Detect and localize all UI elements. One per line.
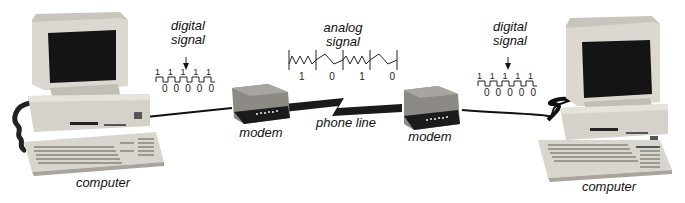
phone-line-label: phone line	[310, 116, 382, 130]
left-computer-cable	[146, 108, 232, 117]
bit: 1	[502, 71, 507, 81]
phone-line-icon	[284, 98, 402, 116]
right-modem-icon	[404, 86, 460, 130]
right-modem-label: modem	[402, 130, 458, 144]
bit: 0	[484, 87, 490, 98]
left-computer-icon	[24, 12, 164, 176]
right-digital-signal-label: digital signal	[488, 20, 532, 48]
analog-label-line1: analog	[318, 21, 368, 35]
left-computer-label: computer	[68, 176, 138, 190]
bit: 1	[206, 67, 211, 77]
bit: 0	[496, 87, 502, 98]
analog-label-line2: signal	[318, 35, 368, 49]
bit: 1	[193, 67, 198, 77]
left-modem-label: modem	[236, 126, 286, 140]
bit: 0	[174, 83, 180, 94]
bit: 1	[359, 71, 365, 82]
left-digital-label-line2: signal	[166, 33, 210, 47]
bit: 1	[180, 67, 185, 77]
bit: 0	[507, 87, 513, 98]
left-top-bits: 1 1 1 1 1	[155, 67, 211, 77]
right-screen	[582, 40, 652, 98]
right-arrow-icon	[505, 63, 511, 70]
analog-waveform	[289, 50, 397, 70]
bit: 1	[168, 67, 173, 77]
bit: 0	[162, 83, 168, 94]
right-top-bits: 1 1 1 1 1	[477, 71, 533, 81]
bit: 1	[477, 71, 482, 81]
left-bottom-bits: 0 0 0 0 0	[162, 83, 214, 94]
right-bottom-bits: 0 0 0 0 0	[484, 87, 536, 98]
bit: 1	[299, 71, 305, 82]
bit: 0	[208, 83, 214, 94]
bit: 1	[528, 71, 533, 81]
bit: 0	[329, 71, 335, 82]
analog-bits: 1 0 1 0	[299, 71, 395, 82]
bit: 0	[530, 87, 536, 98]
right-digital-label-line2: signal	[488, 34, 532, 48]
left-modem-icon	[232, 84, 290, 124]
right-computer-label: computer	[574, 180, 644, 194]
bit: 0	[197, 83, 203, 94]
bit: 1	[515, 71, 520, 81]
analog-signal-label: analog signal	[318, 21, 368, 49]
bit: 0	[519, 87, 525, 98]
bit: 0	[185, 83, 191, 94]
right-digital-label-line1: digital	[488, 20, 532, 34]
left-screen	[48, 30, 116, 83]
bit: 0	[389, 71, 395, 82]
left-digital-label-line1: digital	[166, 19, 210, 33]
bit: 1	[155, 67, 160, 77]
left-digital-signal-label: digital signal	[166, 19, 210, 47]
bit: 1	[490, 71, 495, 81]
